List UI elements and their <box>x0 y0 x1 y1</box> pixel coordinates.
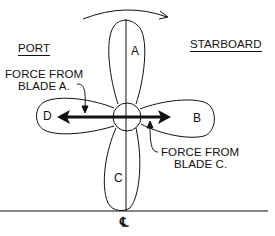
blade-d-label: D <box>43 109 52 123</box>
blade-b-label: B <box>193 111 201 125</box>
blade-b <box>140 100 214 137</box>
blade-a-label: A <box>131 44 139 58</box>
rotation-arrow <box>83 10 168 19</box>
starboard-label: STARBOARD <box>190 38 262 52</box>
force-from-blade-a-line2: BLADE A. <box>18 80 70 93</box>
centerline-symbol: ℄ <box>120 214 128 229</box>
blade-c-label: C <box>114 171 123 185</box>
port-label: PORT <box>18 42 50 56</box>
force-from-blade-c-line2: BLADE C. <box>174 158 227 171</box>
blade-c <box>104 128 140 211</box>
propeller-diagram <box>0 0 275 236</box>
leader-blade-c <box>147 121 158 152</box>
blade-a <box>109 20 145 104</box>
leader-blade-a <box>77 84 88 113</box>
